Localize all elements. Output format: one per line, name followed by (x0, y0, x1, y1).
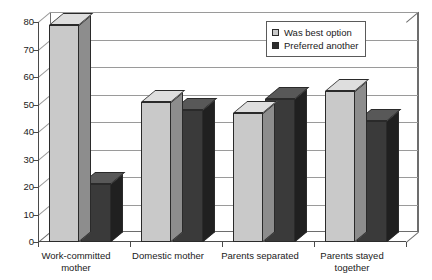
bar-side-face (111, 174, 123, 242)
x-axis-category-label: Parents separated (214, 250, 306, 262)
bar[interactable] (233, 113, 263, 242)
bar-chart: 80706050403020100 Work-committed motherD… (0, 0, 432, 280)
x-axis-category-label: Domestic mother (122, 250, 214, 262)
x-axis-tick-mark (222, 242, 223, 247)
bar-front-face (233, 113, 263, 242)
x-axis-tick-mark (406, 242, 407, 247)
legend-label-was-best-option: Was best option (284, 28, 352, 38)
bar-front-face (325, 91, 355, 242)
bar-side-face (387, 111, 399, 242)
legend-swatch-was-best-option (272, 29, 279, 36)
legend-item[interactable]: Preferred another (272, 39, 358, 52)
bar-side-face (203, 100, 215, 242)
x-axis-tick-mark (130, 242, 131, 247)
bar-front-face (141, 102, 171, 242)
legend-item[interactable]: Was best option (272, 26, 358, 39)
bar-side-face (295, 89, 307, 242)
x-axis-category-label: Work-committed mother (30, 250, 122, 274)
legend-label-preferred-another: Preferred another (284, 41, 358, 51)
x-axis-tick-mark (314, 242, 315, 247)
bar-front-face (49, 25, 79, 242)
x-axis-tick-mark (38, 242, 39, 247)
legend-swatch-preferred-another (272, 42, 279, 49)
bar[interactable] (141, 102, 171, 242)
bar-side-face (79, 15, 91, 242)
bars-layer (0, 0, 432, 280)
bar[interactable] (325, 91, 355, 242)
x-axis-category-label: Parents stayed together (306, 250, 398, 274)
bar[interactable] (49, 25, 79, 242)
bar-side-face (171, 92, 183, 242)
bar-side-face (355, 81, 367, 242)
bar-side-face (263, 103, 275, 242)
legend: Was best option Preferred another (266, 21, 366, 57)
